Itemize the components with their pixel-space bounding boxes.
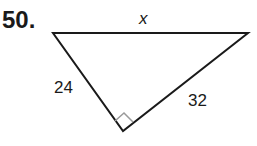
right-triangle bbox=[53, 33, 248, 131]
right-leg-label: 32 bbox=[188, 91, 207, 110]
triangle-figure: x 24 32 bbox=[0, 0, 257, 146]
right-angle-marker bbox=[115, 113, 133, 122]
left-leg-label: 24 bbox=[54, 78, 73, 97]
hypotenuse-label: x bbox=[138, 9, 148, 28]
